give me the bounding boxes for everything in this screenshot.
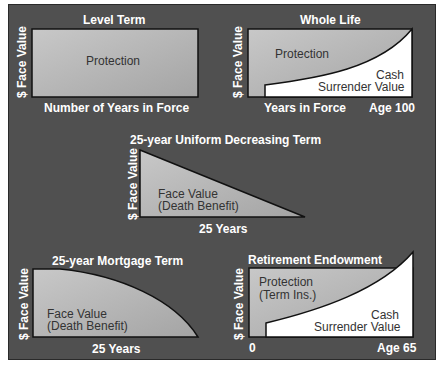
whole-life-x-end-label: Age 100 [369, 101, 415, 115]
level-term-y-label: $ Face Value [15, 26, 29, 98]
retirement-title: Retirement Endowment [248, 253, 382, 267]
decreasing-term-y-label: $ Face Value [126, 148, 140, 220]
whole-life-surrender-label: Surrender Value [318, 80, 405, 94]
retirement-y-label: $ Face Value [232, 268, 246, 340]
retirement-protection-label-1: Protection [259, 275, 313, 289]
whole-life-x-label: Years in Force [264, 101, 346, 115]
level-term-x-label: Number of Years in Force [44, 101, 189, 115]
level-term-title: Level Term [83, 13, 145, 27]
retirement-x-start-label: 0 [249, 341, 256, 355]
retirement-x-end-label: Age 65 [377, 341, 416, 355]
whole-life-y-label: $ Face Value [231, 26, 245, 98]
whole-life-title: Whole Life [300, 13, 361, 27]
decreasing-term-label-2: (Death Benefit) [158, 199, 239, 213]
retirement-surrender-label: Surrender Value [314, 320, 401, 334]
level-term-area-label: Protection [86, 54, 140, 68]
retirement-protection-label-2: (Term Ins.) [259, 288, 316, 302]
mortgage-term-label-2: (Death Benefit) [47, 319, 128, 333]
decreasing-term-x-label: 25 Years [199, 222, 248, 236]
mortgage-term-title: 25-year Mortgage Term [52, 254, 183, 268]
decreasing-term-title: 25-year Uniform Decreasing Term [130, 133, 321, 147]
mortgage-term-y-label: $ Face Value [17, 268, 31, 340]
mortgage-term-x-label: 25 Years [92, 342, 141, 356]
whole-life-protection-label: Protection [275, 47, 329, 61]
